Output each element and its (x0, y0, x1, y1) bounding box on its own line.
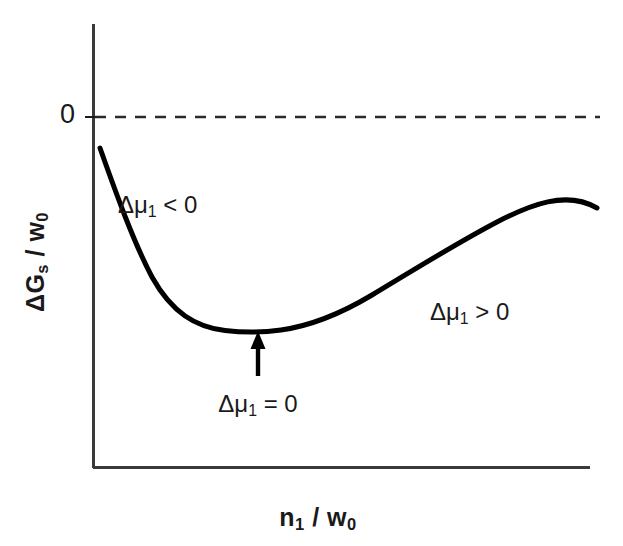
y-axis-zero-tick-label: 0 (60, 101, 75, 128)
plot-canvas (0, 0, 623, 546)
annotation-delta-mu-positive: Δμ1 > 0 (430, 300, 509, 324)
annotation-delta-mu-zero: Δμ1 = 0 (218, 392, 297, 416)
annotation-delta-mu-negative: Δμ1 < 0 (118, 193, 197, 217)
free-energy-figure: 0 ΔGs / w0 n1 / w0 Δμ1 < 0 Δμ1 > 0 Δμ1 =… (0, 0, 623, 546)
y-axis-title: ΔGs / w0 (23, 212, 48, 312)
x-axis-title: n1 / w0 (279, 505, 356, 530)
